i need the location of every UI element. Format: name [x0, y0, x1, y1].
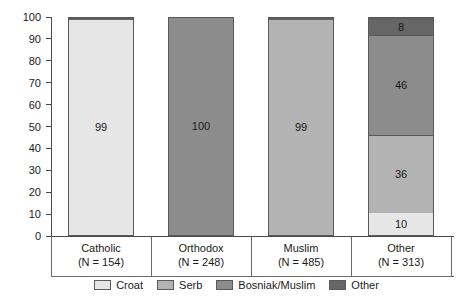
category-separator: [351, 237, 352, 277]
category-axis: Catholic(N = 154)Orthodox(N = 248)Muslim…: [51, 237, 454, 277]
bar-segment-value: 10: [395, 219, 407, 230]
legend-label: Other: [351, 279, 379, 291]
category-separator: [251, 237, 252, 277]
bar-segment[interactable]: 99: [69, 20, 133, 235]
y-axis-tick-label: 10: [29, 208, 41, 220]
y-axis-tick: 20: [0, 186, 51, 198]
category-name: Other: [351, 242, 451, 255]
stacked-bar[interactable]: 1036468: [368, 17, 434, 236]
stacked-bar[interactable]: 100: [168, 17, 234, 236]
legend-swatch-icon: [157, 280, 174, 290]
bar-segment-value: 99: [295, 122, 307, 133]
y-axis-tick: 0: [0, 230, 51, 242]
legend-swatch-icon: [216, 280, 233, 290]
bar-segment-value: 100: [192, 121, 210, 132]
category-sample-size: (N = 485): [251, 256, 351, 269]
plot-area: 99100991036468: [51, 17, 454, 236]
y-axis-tick-label: 70: [29, 77, 41, 89]
bar-segment[interactable]: 36: [369, 135, 433, 213]
y-axis-tick: 100: [0, 11, 51, 23]
y-axis-tick: 50: [0, 121, 51, 133]
bar-segment[interactable]: 46: [369, 35, 433, 135]
legend-label: Bosniak/Muslim: [238, 279, 315, 291]
legend-label: Croat: [116, 279, 143, 291]
category-sample-size: (N = 248): [151, 256, 251, 269]
category-name: Orthodox: [151, 242, 251, 255]
bar-segment[interactable]: 8: [369, 18, 433, 35]
bar-group: 99: [51, 17, 151, 236]
bar-segment[interactable]: 100: [169, 18, 233, 235]
category-separator: [151, 237, 152, 277]
category-label-cell: Other(N = 313): [351, 237, 451, 277]
y-axis-tick-label: 40: [29, 142, 41, 154]
legend-item[interactable]: Serb: [157, 279, 202, 291]
stacked-bar[interactable]: 99: [268, 17, 334, 236]
y-axis-tick: 70: [0, 77, 51, 89]
bar-segment-value: 99: [95, 122, 107, 133]
chart-legend: CroatSerbBosniak/MuslimOther: [0, 279, 473, 291]
y-axis-tick-label: 60: [29, 99, 41, 111]
category-separator: [451, 237, 452, 277]
category-name: Muslim: [251, 242, 351, 255]
bar-group: 100: [151, 17, 251, 236]
y-axis-tick-label: 30: [29, 164, 41, 176]
legend-item[interactable]: Croat: [94, 279, 143, 291]
y-axis-tick-label: 80: [29, 55, 41, 67]
stacked-bar[interactable]: 99: [68, 17, 134, 236]
y-axis-tick: 60: [0, 99, 51, 111]
y-axis-tick: 80: [0, 55, 51, 67]
bar-segment[interactable]: 10: [369, 213, 433, 235]
y-axis-tick-label: 20: [29, 186, 41, 198]
y-axis-tick: 10: [0, 208, 51, 220]
bar-segment[interactable]: 99: [269, 20, 333, 235]
y-axis-tick: 40: [0, 142, 51, 154]
bar-segment-value: 46: [395, 80, 407, 91]
bar-group: 1036468: [351, 17, 451, 236]
legend-item[interactable]: Bosniak/Muslim: [216, 279, 315, 291]
bar-segment[interactable]: [69, 18, 133, 20]
category-label-cell: Muslim(N = 485): [251, 237, 351, 277]
legend-swatch-icon: [94, 280, 111, 290]
category-separator: [51, 237, 52, 277]
category-name: Catholic: [51, 242, 151, 255]
y-axis-tick-label: 0: [35, 230, 41, 242]
legend-item[interactable]: Other: [329, 279, 379, 291]
y-axis-tick-label: 100: [23, 11, 41, 23]
category-label-cell: Catholic(N = 154): [51, 237, 151, 277]
bar-segment-value: 8: [398, 22, 404, 33]
category-sample-size: (N = 313): [351, 256, 451, 269]
bar-group: 99: [251, 17, 351, 236]
bar-segment-value: 36: [395, 169, 407, 180]
legend-label: Serb: [179, 279, 202, 291]
bar-segment[interactable]: [269, 18, 333, 20]
category-label-cell: Orthodox(N = 248): [151, 237, 251, 277]
stacked-bar-chart: 0102030405060708090100 99100991036468 Ca…: [0, 0, 473, 300]
y-axis-tick: 90: [0, 33, 51, 45]
y-axis-tick-label: 50: [29, 121, 41, 133]
legend-swatch-icon: [329, 280, 346, 290]
category-sample-size: (N = 154): [51, 256, 151, 269]
y-axis-tick: 30: [0, 164, 51, 176]
y-axis-tick-label: 90: [29, 33, 41, 45]
